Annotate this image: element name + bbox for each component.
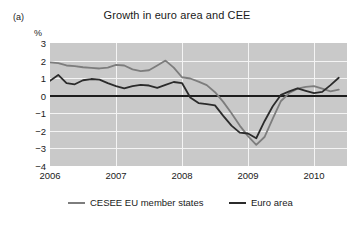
x-tick-2006: 2006	[39, 170, 60, 181]
chart-title: Growth in euro area and CEE	[0, 9, 354, 21]
y-tick-3: 3	[20, 38, 46, 49]
y-axis-unit-label: %	[34, 28, 42, 38]
chart-figure: (a) Growth in euro area and CEE % 3210−1…	[0, 0, 354, 227]
y-tick--2: −2	[20, 125, 46, 136]
legend-line-swatch-icon	[68, 202, 85, 204]
y-tick--1: −1	[20, 108, 46, 119]
legend-item-euro-area[interactable]: Euro area	[229, 197, 293, 208]
series-line-euro-area	[50, 75, 339, 138]
x-axis-tick-labels: 20062007200820092010	[50, 170, 347, 184]
plot-area	[50, 43, 347, 166]
x-tick-2007: 2007	[105, 170, 126, 181]
y-axis-tick-labels: 3210−1−2−3−4	[16, 43, 46, 166]
y-tick--3: −3	[20, 143, 46, 154]
legend-label: CESEE EU member states	[90, 197, 204, 208]
y-tick-0: 0	[20, 90, 46, 101]
x-tick-2009: 2009	[237, 170, 258, 181]
legend-item-cesee-eu-member-states[interactable]: CESEE EU member states	[68, 197, 204, 208]
legend-line-swatch-icon	[229, 202, 246, 204]
series-lines	[50, 43, 347, 166]
x-tick-2008: 2008	[171, 170, 192, 181]
x-tick-2010: 2010	[303, 170, 324, 181]
y-tick-2: 2	[20, 55, 46, 66]
chart-legend: CESEE EU member statesEuro area	[0, 197, 354, 213]
series-line-cesee-eu-member-states	[50, 61, 339, 145]
y-tick-1: 1	[20, 73, 46, 84]
legend-label: Euro area	[251, 197, 293, 208]
